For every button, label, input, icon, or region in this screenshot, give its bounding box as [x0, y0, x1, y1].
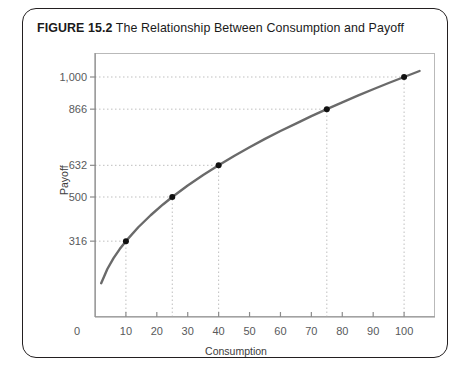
- data-point[interactable]: [324, 106, 330, 112]
- x-tick-label: 30: [182, 325, 194, 337]
- figure-title-text: The Relationship Between Consumption and…: [116, 21, 404, 35]
- figure-title: FIGURE 15.2 The Relationship Between Con…: [37, 21, 404, 35]
- data-point[interactable]: [216, 162, 222, 168]
- figure-number: FIGURE 15.2: [37, 21, 112, 35]
- x-tick-label: 40: [213, 325, 225, 337]
- chart-canvas: [73, 53, 435, 325]
- x-tick-label: 50: [243, 325, 255, 337]
- x-tick-label: 20: [151, 325, 163, 337]
- x-tick-label: 90: [367, 325, 379, 337]
- y-tick-label: 632: [23, 159, 87, 171]
- payoff-curve: [101, 71, 419, 283]
- y-tick-label: 1,000: [23, 71, 87, 83]
- x-tick-label: 80: [336, 325, 348, 337]
- data-point[interactable]: [123, 238, 129, 244]
- data-point[interactable]: [169, 194, 175, 200]
- x-tick-label: 0: [74, 325, 80, 337]
- y-tick-label: 500: [23, 191, 87, 203]
- y-tick-label: 316: [23, 235, 87, 247]
- figure-card: FIGURE 15.2 The Relationship Between Con…: [22, 8, 448, 358]
- x-tick-label: 60: [274, 325, 286, 337]
- data-point[interactable]: [401, 74, 407, 80]
- y-tick-label: 866: [23, 103, 87, 115]
- x-tick-label: 70: [305, 325, 317, 337]
- x-tick-label: 10: [120, 325, 132, 337]
- x-axis-label: Consumption: [23, 345, 449, 357]
- plot-area: [73, 53, 435, 325]
- x-tick-label: 100: [395, 325, 413, 337]
